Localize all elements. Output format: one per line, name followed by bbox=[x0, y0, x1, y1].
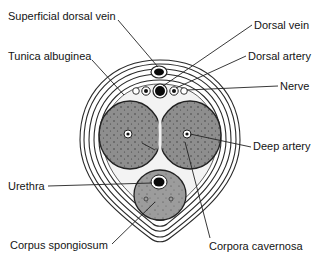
label-tunica-albuginea: Tunica albuginea bbox=[8, 50, 92, 62]
label-dorsal-vein: Dorsal vein bbox=[254, 19, 309, 31]
label-deep-artery: Deep artery bbox=[253, 140, 311, 152]
corpus-spongiosum bbox=[134, 170, 186, 220]
label-urethra: Urethra bbox=[8, 180, 46, 192]
corpora-cavernosa bbox=[99, 101, 221, 169]
penis-cross-section-diagram: Superficial dorsal vein Tunica albuginea… bbox=[0, 0, 317, 261]
label-corpus-spongiosum: Corpus spongiosum bbox=[10, 239, 108, 251]
label-superficial-dorsal-vein: Superficial dorsal vein bbox=[8, 10, 116, 22]
label-dorsal-artery: Dorsal artery bbox=[248, 50, 311, 62]
label-nerve: Nerve bbox=[280, 80, 309, 92]
label-corpora-cavernosa: Corpora cavernosa bbox=[209, 240, 303, 252]
